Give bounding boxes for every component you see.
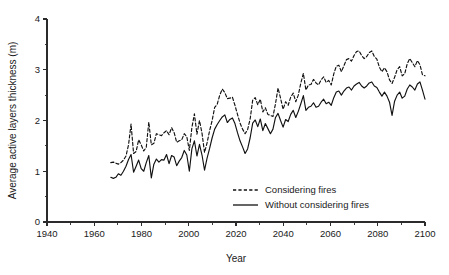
x-tick-label-2080: 2080 [367, 228, 388, 239]
legend-label-1: Without considering fires [265, 199, 369, 210]
x-tick-label-2000: 2000 [178, 228, 199, 239]
y-tick-label-0: 0 [35, 216, 40, 227]
x-tick-label-2040: 2040 [273, 228, 294, 239]
legend-label-0: Considering fires [265, 184, 337, 195]
y-tick-label-1: 1 [35, 166, 40, 177]
series-without-considering-fires [111, 82, 425, 178]
x-axis-title: Year [226, 253, 247, 264]
axis-lines [47, 19, 425, 222]
x-tick-label-1960: 1960 [84, 228, 105, 239]
x-tick-label-1980: 1980 [131, 228, 152, 239]
y-tick-label-4: 4 [35, 13, 40, 24]
x-tick-label-2100: 2100 [414, 228, 435, 239]
x-tick-label-2020: 2020 [225, 228, 246, 239]
y-axis-title: Average active layers thickness (m) [7, 42, 18, 200]
x-tick-label-1940: 1940 [36, 228, 57, 239]
y-tick-label-3: 3 [35, 64, 40, 75]
line-chart: 0123419401960198020002020204020602080210… [0, 0, 449, 275]
series-considering-fires [111, 51, 425, 164]
chart-figure: 0123419401960198020002020204020602080210… [0, 0, 449, 275]
x-tick-label-2060: 2060 [320, 228, 341, 239]
y-tick-label-2: 2 [35, 115, 40, 126]
